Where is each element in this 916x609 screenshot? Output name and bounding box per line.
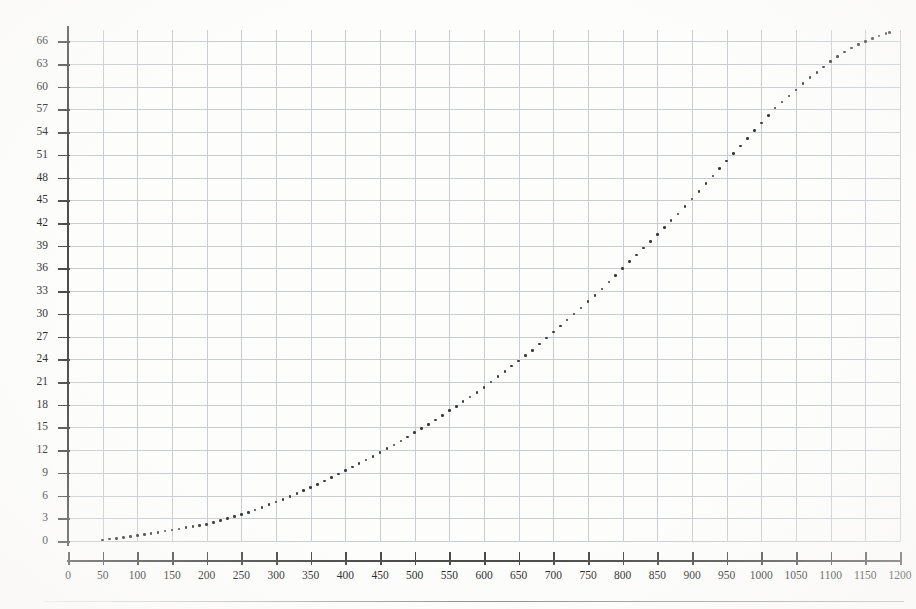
chart-figure: 0369121518212427303336394245485154576063… (0, 0, 916, 609)
plot-area (68, 30, 900, 541)
y-tick-mark (58, 132, 70, 134)
y-axis-line (67, 26, 69, 546)
data-point (649, 240, 652, 243)
x-tick-mark (865, 552, 867, 565)
data-point (781, 101, 784, 104)
gridline-horizontal (68, 473, 900, 474)
data-point (178, 528, 181, 531)
data-point (559, 325, 562, 328)
data-point (309, 486, 312, 489)
y-tick-label: 63 (14, 58, 48, 70)
y-tick-label: 48 (14, 172, 48, 184)
data-point (580, 307, 583, 310)
data-point (888, 31, 891, 34)
data-point (594, 294, 597, 297)
gridline-vertical (553, 30, 554, 541)
gridline-vertical (623, 30, 624, 541)
x-tick-mark (415, 552, 417, 565)
data-point (448, 409, 451, 412)
data-point (268, 503, 271, 506)
data-point (372, 455, 375, 458)
y-tick-label: 27 (14, 331, 48, 343)
data-point (753, 129, 756, 132)
y-tick-label: 30 (14, 308, 48, 320)
x-tick-mark (623, 552, 625, 565)
data-point (337, 473, 340, 476)
x-tick-mark (588, 552, 590, 565)
data-point (205, 523, 208, 526)
x-tick-mark (137, 552, 139, 565)
y-tick-label: 21 (14, 376, 48, 388)
gridline-horizontal (68, 155, 900, 156)
data-point (802, 82, 805, 85)
data-point (330, 476, 333, 479)
data-point (462, 400, 465, 403)
x-tick-mark (103, 552, 105, 565)
gridline-vertical (172, 30, 173, 541)
data-point (434, 419, 437, 422)
data-point (427, 423, 430, 426)
gridline-vertical (519, 30, 520, 541)
gridline-vertical (345, 30, 346, 541)
data-point (212, 521, 215, 524)
data-point (524, 354, 527, 357)
gridline-horizontal (68, 314, 900, 315)
data-point (614, 274, 617, 277)
data-point (441, 414, 444, 417)
x-tick-mark (449, 552, 451, 565)
gridline-horizontal (68, 496, 900, 497)
x-tick-mark (68, 552, 70, 565)
data-point (857, 43, 860, 46)
gridline-vertical (865, 30, 866, 541)
data-point (517, 360, 520, 363)
gridline-vertical (657, 30, 658, 541)
y-tick-label: 0 (14, 535, 48, 547)
y-tick-label: 33 (14, 285, 48, 297)
y-tick-label: 51 (14, 149, 48, 161)
data-point (122, 536, 125, 539)
gridline-vertical (311, 30, 312, 541)
y-tick-label: 54 (14, 126, 48, 138)
page-rule (44, 601, 904, 602)
data-point (552, 331, 555, 334)
data-point (677, 213, 680, 216)
data-point (538, 343, 541, 346)
data-point (718, 167, 721, 170)
data-point (185, 526, 188, 529)
data-point (497, 375, 500, 378)
gridline-horizontal (68, 382, 900, 383)
gridline-vertical (900, 30, 901, 541)
data-point (365, 459, 368, 462)
y-tick-mark (58, 337, 70, 339)
y-tick-mark (58, 496, 70, 498)
gridline-horizontal (68, 541, 900, 542)
x-tick-mark (692, 552, 694, 565)
y-tick-label: 12 (14, 444, 48, 456)
y-tick-label: 3 (14, 512, 48, 524)
y-tick-mark (58, 382, 70, 384)
data-point (767, 114, 770, 117)
data-point (705, 182, 708, 185)
y-tick-mark (58, 268, 70, 270)
data-point (545, 337, 548, 340)
data-point (240, 513, 243, 516)
gridline-horizontal (68, 178, 900, 179)
data-point (198, 524, 201, 527)
y-tick-mark (58, 178, 70, 180)
gridline-vertical (207, 30, 208, 541)
data-point (302, 489, 305, 492)
data-point (504, 370, 507, 373)
gridline-horizontal (68, 41, 900, 42)
data-point (261, 506, 264, 509)
gridline-vertical (380, 30, 381, 541)
data-point (323, 480, 326, 483)
x-tick-mark (345, 552, 347, 565)
data-point (413, 431, 416, 434)
data-point (351, 466, 354, 469)
gridline-vertical (241, 30, 242, 541)
data-point (788, 95, 791, 98)
y-tick-mark (58, 200, 70, 202)
gridline-horizontal (68, 427, 900, 428)
data-point (483, 386, 486, 389)
y-tick-mark (58, 541, 70, 543)
